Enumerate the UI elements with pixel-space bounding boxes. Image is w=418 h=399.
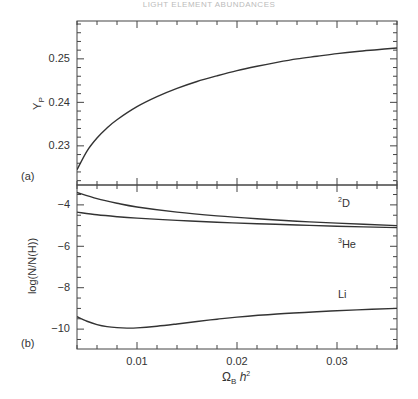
panel-a-frame: [77, 21, 397, 185]
curve-yp: [77, 48, 397, 170]
curve-li: [77, 308, 397, 328]
y-label-a-main: Y: [31, 103, 43, 110]
ann-he-text: He: [342, 238, 356, 250]
y-axis-label-a: YP: [31, 97, 46, 110]
curve-3he: [77, 212, 397, 228]
x-label-sup: 2: [246, 370, 250, 377]
panel-b-frame: [77, 185, 397, 349]
y-label-a-sub: P: [37, 97, 46, 102]
y-axis-label-b: log(N/N(H)): [26, 238, 38, 294]
x-label-omega: Ω: [222, 370, 231, 384]
xtick-2: 0.03: [317, 355, 357, 367]
annotation-deuterium: 2D: [338, 196, 350, 209]
ann-d-text: D: [342, 197, 350, 209]
xtick-1: 0.02: [217, 355, 257, 367]
ytick-a-0: 0.25: [30, 52, 70, 64]
annotation-helium3: 3He: [338, 237, 356, 250]
panel-label-a: (a): [21, 170, 34, 182]
panel-label-b: (b): [21, 337, 34, 349]
ytick-b-3: −10: [30, 322, 70, 334]
annotation-lithium: Li: [338, 288, 347, 300]
xtick-0: 0.01: [117, 355, 157, 367]
ytick-b-0: −4: [30, 198, 70, 210]
x-axis-label: ΩB h2: [222, 370, 250, 386]
x-label-sub: B: [231, 377, 236, 386]
ytick-a-2: 0.23: [30, 139, 70, 151]
